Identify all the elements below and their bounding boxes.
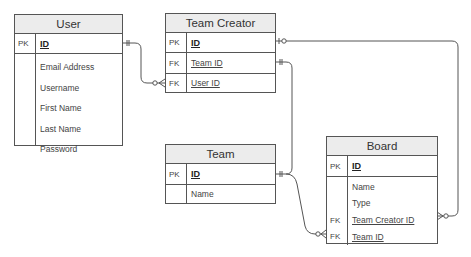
entity-user[interactable]: User PK ID Email Address Username First … (14, 14, 123, 146)
attribute: Email Address (40, 57, 122, 78)
fk-row[interactable]: FK Team Creator ID (327, 212, 437, 229)
pk-field: ID (186, 33, 275, 52)
link-team-teamcreator[interactable] (275, 62, 292, 174)
link-team-board[interactable] (286, 174, 326, 234)
attribute-row[interactable]: Type (327, 195, 437, 212)
zero-mark (282, 39, 286, 43)
fk-row[interactable]: FK User ID (166, 74, 275, 93)
fk-label: FK (166, 74, 186, 93)
entity-title: User (15, 15, 122, 34)
pk-row[interactable]: PK ID (327, 156, 437, 177)
fk-row[interactable]: FK Team ID (166, 53, 275, 74)
fk-field: Team Creator ID (347, 212, 437, 229)
entity-team-creator[interactable]: Team Creator PK ID FK Team ID FK User ID (165, 13, 276, 93)
attribute: Name (347, 177, 437, 195)
entity-title: Board (327, 137, 437, 156)
attribute: First Name (40, 98, 122, 119)
fk-field: Team ID (186, 53, 275, 73)
entity-title: Team (166, 145, 275, 164)
pk-label: PK (166, 164, 186, 184)
pk-row[interactable]: PK ID (166, 164, 275, 185)
zero-mark (316, 232, 320, 236)
attribute: Password (40, 139, 122, 160)
attribute-row[interactable]: Name (166, 185, 275, 204)
fk-label: FK (327, 212, 347, 229)
fk-field: User ID (186, 74, 275, 93)
fk-label: FK (327, 229, 347, 245)
pk-row[interactable]: PK ID (166, 33, 275, 53)
pk-label: PK (15, 34, 35, 53)
attribute-row[interactable]: Name (327, 177, 437, 195)
pk-row[interactable]: PK ID (15, 34, 122, 54)
zero-mark (153, 81, 157, 85)
attribute: Name (186, 185, 275, 204)
attribute: Last Name (40, 119, 122, 140)
zero-mark (444, 214, 448, 218)
fk-row[interactable]: FK Team ID (327, 229, 437, 245)
entity-board[interactable]: Board PK ID Name Type FK Team Creator ID… (326, 136, 438, 244)
pk-label: PK (166, 33, 186, 52)
link-user-teamcreator[interactable] (122, 43, 165, 83)
pk-field: ID (35, 34, 122, 53)
entity-title: Team Creator (166, 14, 275, 33)
attribute: Username (40, 78, 122, 99)
attribute: Type (347, 195, 437, 212)
fk-field: Team ID (347, 229, 437, 245)
fk-label: FK (166, 53, 186, 73)
pk-label: PK (327, 156, 347, 176)
pk-field: ID (347, 156, 437, 176)
pk-field: ID (186, 164, 275, 184)
entity-team[interactable]: Team PK ID Name (165, 144, 276, 204)
